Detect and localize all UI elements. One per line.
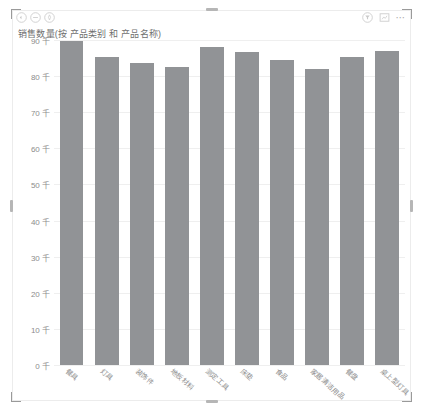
bar-slot (300, 40, 335, 365)
x-axis-tick-label[interactable]: 食品 (274, 366, 291, 383)
bar-slot (370, 40, 405, 365)
x-axis-labels: 餐具灯具装饰件地板材料测定工具床垫食品家居清洁用品餐盘桌上型灯具 (54, 366, 405, 406)
resize-handle-bottom-left[interactable] (11, 392, 21, 402)
resize-handle-bottom[interactable] (206, 400, 218, 403)
resize-handle-left[interactable] (10, 200, 13, 212)
y-axis-tick-label: 50 千 (31, 179, 50, 190)
bar-slot (124, 40, 159, 365)
resize-handle-top-right[interactable] (402, 9, 412, 19)
x-axis-label-slot: 桌上型灯具 (370, 366, 405, 406)
y-axis: 90 千80 千70 千60 千50 千40 千30 千20 千10 千0 千 (12, 40, 54, 365)
resize-handle-top-left[interactable] (11, 9, 21, 19)
y-axis-tick-label: 40 千 (31, 215, 50, 226)
y-axis-tick-label: 10 千 (31, 323, 50, 334)
x-axis-label-slot: 装饰件 (124, 366, 159, 406)
bar-slot (54, 40, 89, 365)
bar[interactable] (235, 52, 259, 365)
bar[interactable] (130, 63, 154, 365)
bar[interactable] (340, 57, 364, 365)
y-axis-tick-label: 80 千 (31, 71, 50, 82)
x-axis-label-slot: 家居清洁用品 (300, 366, 335, 406)
bar[interactable] (270, 60, 294, 366)
x-axis-label-slot: 食品 (265, 366, 300, 406)
visual-header: ⋯ (12, 10, 411, 27)
y-axis-tick-label: 0 千 (35, 360, 50, 371)
y-axis-tick-label: 20 千 (31, 287, 50, 298)
chart-plot-wrapper: 90 千80 千70 千60 千50 千40 千30 千20 千10 千0 千 … (12, 40, 411, 401)
x-axis-tick-label[interactable]: 灯具 (98, 366, 115, 383)
bar-slot (335, 40, 370, 365)
filter-circle-icon[interactable] (362, 12, 373, 23)
x-axis-tick-label[interactable]: 床垫 (239, 366, 256, 383)
x-axis-label-slot: 餐盘 (335, 366, 370, 406)
bar-slot (194, 40, 229, 365)
x-axis-tick-label[interactable]: 地板材料 (169, 366, 197, 392)
visual-container[interactable]: ⋯ 销售数量(按 产品类别 和 产品名称) 90 千80 千70 千60 千50… (12, 10, 411, 401)
bar[interactable] (305, 69, 329, 365)
plot-area (54, 40, 405, 365)
pin-circle-icon[interactable] (44, 12, 55, 23)
resize-handle-bottom-right[interactable] (402, 392, 412, 402)
visual-header-left-icons (16, 12, 55, 23)
minus-circle-icon[interactable] (30, 12, 41, 23)
x-axis: 餐具灯具装饰件地板材料测定工具床垫食品家居清洁用品餐盘桌上型灯具 (54, 366, 405, 406)
x-axis-tick-label[interactable]: 餐盘 (344, 366, 361, 383)
y-axis-tick-label: 30 千 (31, 251, 50, 262)
resize-handle-right[interactable] (410, 200, 413, 212)
bar[interactable] (60, 41, 84, 365)
bar[interactable] (165, 67, 189, 365)
x-axis-label-slot: 床垫 (229, 366, 264, 406)
x-axis-label-slot: 餐具 (54, 366, 89, 406)
x-axis-tick-label[interactable]: 餐具 (63, 366, 80, 383)
x-axis-label-slot: 灯具 (89, 366, 124, 406)
bar[interactable] (95, 57, 119, 365)
y-axis-tick-label: 90 千 (31, 35, 50, 46)
y-axis-tick-label: 60 千 (31, 143, 50, 154)
x-axis-tick-label[interactable]: 测定工具 (204, 366, 232, 392)
focus-mode-icon[interactable] (379, 12, 390, 23)
visual-header-right-icons: ⋯ (362, 12, 407, 23)
bar-series (54, 40, 405, 365)
resize-handle-top[interactable] (206, 8, 218, 11)
bar-slot (159, 40, 194, 365)
bar[interactable] (200, 47, 224, 366)
bar-slot (265, 40, 300, 365)
bar-slot (89, 40, 124, 365)
bar-slot (229, 40, 264, 365)
bar[interactable] (375, 51, 399, 365)
y-axis-tick-label: 70 千 (31, 107, 50, 118)
x-axis-tick-label[interactable]: 装饰件 (134, 366, 157, 388)
x-axis-label-slot: 地板材料 (159, 366, 194, 406)
